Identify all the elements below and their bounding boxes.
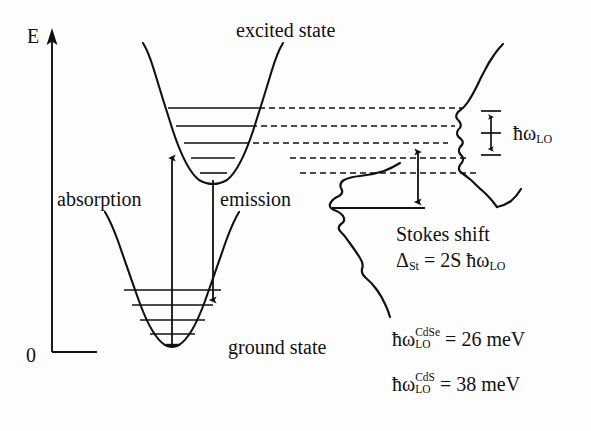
figure-canvas: E 0 excited state ground state absorptio… xyxy=(0,0,591,431)
cds-subscript: LO xyxy=(415,384,435,396)
cdse-superscript: CdSe xyxy=(415,327,440,339)
stokes-hbar-omega: ħω xyxy=(466,249,489,271)
excited-state-label: excited state xyxy=(236,20,335,40)
stokes-delta-subscript: St xyxy=(409,259,419,273)
absorption-spectrum-curve xyxy=(456,44,521,207)
cds-supsub: CdSLO xyxy=(415,372,435,395)
cdse-phonon-equation: ħωCdSeLO = 26 meV xyxy=(392,327,525,350)
stokes-shift-equation: ΔSt = 2S ħωLO xyxy=(396,250,505,272)
excited-state-parabola xyxy=(143,43,283,184)
stokes-hbar-omega-subscript: LO xyxy=(489,259,505,273)
cds-phonon-equation: ħωCdSLO = 38 meV xyxy=(392,372,520,395)
cdse-equals: = xyxy=(445,328,456,350)
cds-superscript: CdS xyxy=(415,372,435,384)
phonon-energy-arrow xyxy=(481,111,501,155)
cdse-supsub: CdSeLO xyxy=(415,327,440,350)
stokes-equals: = 2S xyxy=(424,249,461,271)
stokes-shift-title: Stokes shift xyxy=(396,224,490,244)
phonon-energy-subscript: LO xyxy=(536,132,552,146)
ground-state-label: ground state xyxy=(228,337,326,357)
phonon-energy-label: ħωLO xyxy=(513,123,552,145)
cds-value: 38 xyxy=(456,373,476,395)
cds-hbar-omega: ħω xyxy=(392,373,415,395)
cds-equals: = xyxy=(440,373,451,395)
stokes-delta-symbol: Δ xyxy=(396,249,409,271)
excited-state-vibrational-levels xyxy=(168,108,259,173)
cds-unit: meV xyxy=(481,373,520,395)
cdse-subscript: LO xyxy=(415,339,440,351)
emission-label: emission xyxy=(220,189,291,209)
cdse-hbar-omega: ħω xyxy=(392,328,415,350)
absorption-label: absorption xyxy=(57,189,141,209)
cdse-value: 26 xyxy=(461,328,481,350)
zero-label: 0 xyxy=(26,345,36,365)
cdse-unit: meV xyxy=(486,328,525,350)
phonon-energy-symbol: ħω xyxy=(513,122,536,144)
diagram-svg xyxy=(0,0,591,431)
dashed-tie-lines xyxy=(243,108,480,173)
energy-axis-label: E xyxy=(27,26,39,46)
